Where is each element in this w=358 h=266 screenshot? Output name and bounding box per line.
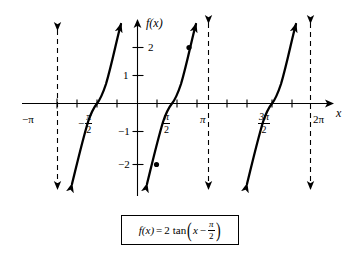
x-axis: [22, 99, 333, 109]
x-axis-label: x: [336, 107, 341, 119]
equation-minus: −: [200, 224, 206, 236]
neg-pi-over-2-sign: −: [78, 118, 84, 129]
marked-point-negative-two: [154, 162, 159, 167]
y-tick-label-neg1: −1: [118, 126, 130, 137]
equation-variable: x: [193, 224, 198, 236]
y-tick-label-1: 1: [123, 70, 129, 81]
neg-pi-over-2-denominator: 2: [85, 124, 92, 135]
x-tick-label-neg-pi-over-2: − π 2: [78, 112, 92, 135]
y-axis-label: f(x): [146, 17, 163, 29]
y-tick-label-2: 2: [148, 42, 154, 53]
y-axis: [133, 20, 144, 196]
neg-pi-over-2-fraction: π 2: [85, 112, 92, 135]
x-tick-label-2pi: 2π: [313, 114, 324, 125]
equation-box: f(x) = 2 tan ( x − π 2 ): [121, 215, 239, 245]
equation-content: f(x) = 2 tan ( x − π 2 ): [122, 216, 238, 244]
three-pi-over-2-numerator: 3π: [258, 112, 270, 124]
neg-pi-symbol: π: [28, 113, 34, 125]
neg-pi-over-2-numerator: π: [85, 112, 92, 124]
pi-over-2-numerator: π: [163, 112, 170, 124]
equation-fx: f(x): [139, 224, 154, 236]
two-pi-symbol: 2π: [313, 113, 324, 125]
x-tick-label-pi: π: [200, 114, 206, 125]
x-tick-label-3pi-over-2: 3π 2: [258, 112, 270, 135]
x-tick-label-neg-pi: −π: [22, 114, 34, 125]
equation-argument: x − π 2: [193, 220, 215, 241]
equation-coefficient: 2: [164, 224, 170, 236]
equation-numerator: π: [208, 220, 215, 231]
y-tick-label-neg2: −2: [118, 159, 130, 170]
pi-over-2-denominator: 2: [163, 124, 170, 135]
equation-open-paren: (: [187, 220, 192, 240]
equation-denominator: 2: [208, 231, 215, 241]
marked-point-positive-two: [186, 45, 191, 50]
tangent-function-figure: f(x) x 2 1 −1 −2 −π − π 2 π 2 π 3π 2 2π …: [0, 0, 358, 266]
x-tick-label-pi-over-2: π 2: [163, 112, 170, 135]
equation-function-name: tan: [173, 224, 186, 236]
equation-equals: =: [156, 224, 162, 236]
equation-fraction: π 2: [208, 220, 215, 241]
equation-close-paren: ): [216, 220, 221, 240]
three-pi-over-2-denominator: 2: [258, 124, 270, 135]
